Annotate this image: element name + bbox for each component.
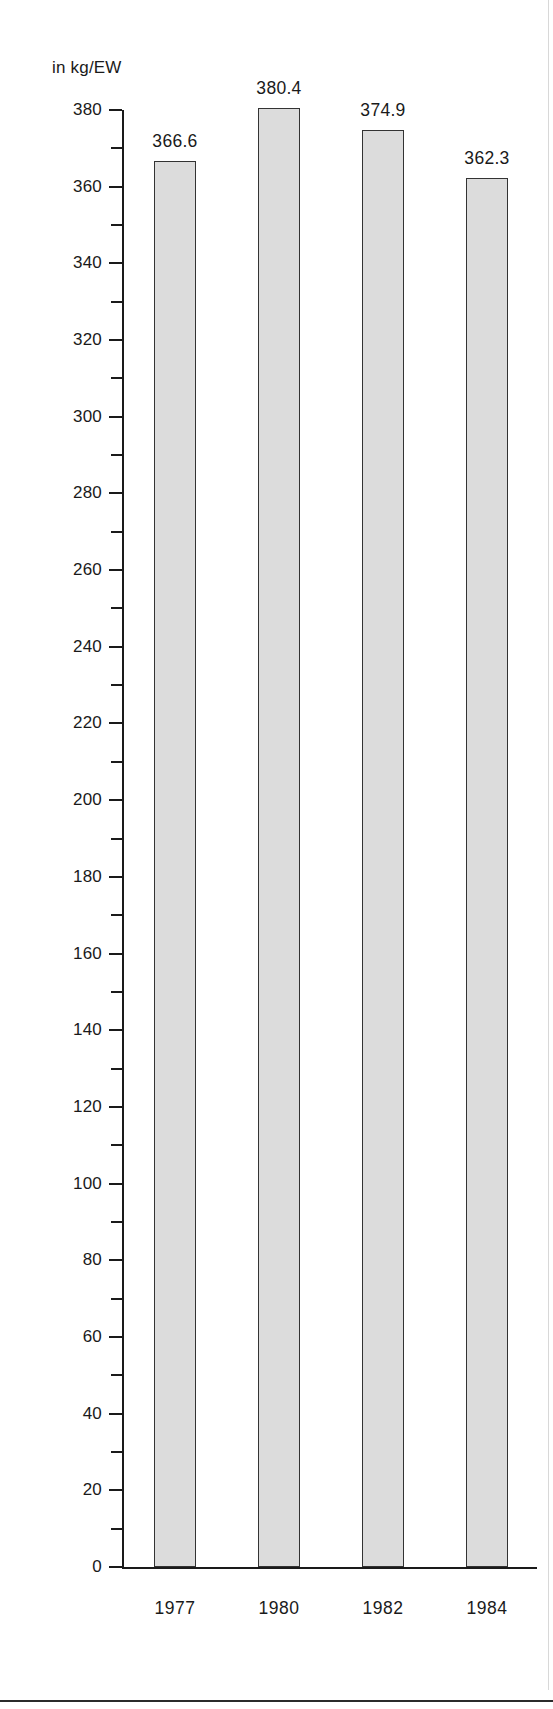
y-tick-major <box>109 262 122 264</box>
y-tick-minor <box>111 838 122 840</box>
bar <box>258 108 300 1567</box>
y-tick-minor <box>111 531 122 533</box>
y-tick-major <box>109 876 122 878</box>
y-tick-major <box>109 1183 122 1185</box>
x-axis-line <box>122 1567 537 1569</box>
y-tick-major <box>109 1259 122 1261</box>
bar-value-label: 362.3 <box>437 150 537 168</box>
y-tick-minor <box>111 607 122 609</box>
y-tick-label: 240 <box>36 638 102 655</box>
bar <box>362 130 404 1567</box>
y-tick-label: 200 <box>36 791 102 808</box>
y-tick-major <box>109 799 122 801</box>
plot-area: 3803603403203002802602402202001801601401… <box>0 0 553 1709</box>
bar <box>466 178 508 1567</box>
y-tick-major <box>109 1106 122 1108</box>
y-tick-label: 340 <box>36 254 102 271</box>
y-tick-label: 260 <box>36 561 102 578</box>
y-axis-line <box>122 110 124 1569</box>
y-tick-major <box>109 953 122 955</box>
y-tick-minor <box>111 1068 122 1070</box>
y-tick-label: 40 <box>36 1405 102 1422</box>
y-tick-minor <box>111 1298 122 1300</box>
y-tick-minor <box>111 454 122 456</box>
y-tick-major <box>109 1336 122 1338</box>
y-tick-major <box>109 1029 122 1031</box>
y-tick-minor <box>111 1144 122 1146</box>
y-tick-label: 140 <box>36 1021 102 1038</box>
y-tick-label: 120 <box>36 1098 102 1115</box>
bar <box>154 161 196 1567</box>
y-tick-major <box>109 416 122 418</box>
page-footer-rule <box>0 1700 553 1702</box>
y-tick-minor <box>111 1374 122 1376</box>
bar-chart-figure: in kg/EW 3803603403203002802602402202001… <box>0 0 553 1709</box>
x-axis-category-label: 1977 <box>125 1600 225 1618</box>
bar-value-label: 374.9 <box>333 102 433 120</box>
y-tick-major <box>109 186 122 188</box>
y-tick-major <box>109 492 122 494</box>
y-tick-minor <box>111 761 122 763</box>
y-tick-major <box>109 569 122 571</box>
y-tick-label: 100 <box>36 1175 102 1192</box>
x-axis-category-label: 1984 <box>437 1600 537 1618</box>
y-tick-label: 20 <box>36 1481 102 1498</box>
y-tick-label: 360 <box>36 178 102 195</box>
y-tick-label: 220 <box>36 714 102 731</box>
y-tick-minor <box>111 684 122 686</box>
y-tick-major <box>109 109 122 111</box>
y-tick-label: 300 <box>36 408 102 425</box>
y-tick-major <box>109 1413 122 1415</box>
y-tick-label: 0 <box>36 1558 102 1575</box>
y-tick-minor <box>111 224 122 226</box>
y-tick-label: 60 <box>36 1328 102 1345</box>
y-tick-label: 280 <box>36 484 102 501</box>
y-tick-major <box>109 1566 122 1568</box>
y-tick-minor <box>111 1221 122 1223</box>
y-tick-label: 320 <box>36 331 102 348</box>
y-tick-label: 380 <box>36 101 102 118</box>
y-tick-label: 80 <box>36 1251 102 1268</box>
y-tick-minor <box>111 914 122 916</box>
x-axis-category-label: 1982 <box>333 1600 433 1618</box>
y-tick-major <box>109 339 122 341</box>
y-tick-major <box>109 646 122 648</box>
y-tick-label: 160 <box>36 945 102 962</box>
y-tick-minor <box>111 991 122 993</box>
bar-value-label: 380.4 <box>229 80 329 98</box>
y-tick-minor <box>111 1451 122 1453</box>
page-right-rule <box>548 0 549 1690</box>
bar-value-label: 366.6 <box>125 133 225 151</box>
y-tick-minor <box>111 377 122 379</box>
y-tick-major <box>109 1489 122 1491</box>
y-tick-label: 180 <box>36 868 102 885</box>
y-tick-minor <box>111 301 122 303</box>
y-tick-major <box>109 722 122 724</box>
y-tick-minor <box>111 1528 122 1530</box>
y-tick-minor <box>111 147 122 149</box>
x-axis-category-label: 1980 <box>229 1600 329 1618</box>
